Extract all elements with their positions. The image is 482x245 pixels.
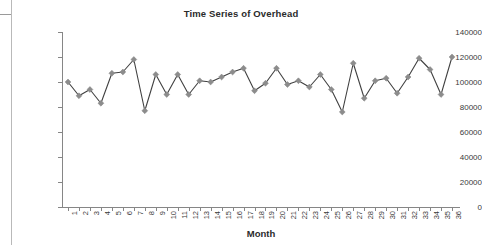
series-data-point — [438, 92, 444, 98]
series-overhead — [0, 0, 482, 245]
series-data-point — [175, 72, 181, 78]
series-data-point — [230, 69, 236, 75]
series-data-point — [241, 65, 247, 71]
series-data-point — [109, 70, 115, 76]
series-data-point — [372, 78, 378, 84]
series-data-point — [164, 92, 170, 98]
series-data-point — [142, 108, 148, 114]
series-data-point — [350, 60, 356, 66]
series-data-point — [361, 95, 367, 101]
series-data-point — [449, 54, 455, 60]
series-markers — [65, 54, 455, 115]
x-axis-title: Month — [62, 228, 460, 239]
series-data-point — [208, 79, 214, 85]
series-data-point — [153, 72, 159, 78]
chart-screenshot: Time Series of Overhead 1400001200001000… — [0, 0, 482, 245]
series-line — [68, 57, 452, 112]
series-data-point — [339, 109, 345, 115]
series-data-point — [296, 78, 302, 84]
series-data-point — [219, 74, 225, 80]
